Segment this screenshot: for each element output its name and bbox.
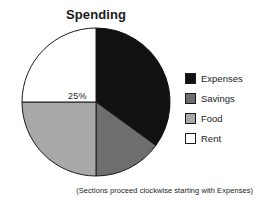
pie-slice-label-rent: 25% (68, 91, 87, 101)
legend-item-expenses: Expenses (185, 68, 259, 88)
legend-label-savings: Savings (201, 93, 235, 104)
legend-swatch-expenses (185, 73, 196, 84)
legend-swatch-savings (185, 93, 196, 104)
legend-swatch-food (185, 113, 196, 124)
legend-label-food: Food (201, 113, 223, 124)
legend-swatch-rent (185, 133, 196, 144)
chart-title: Spending (0, 7, 192, 22)
legend-label-rent: Rent (201, 133, 221, 144)
pie-svg (21, 27, 171, 177)
legend-item-rent: Rent (185, 128, 259, 148)
legend: Expenses Savings Food Rent (185, 68, 259, 148)
pie-chart-graphic: 25% (21, 27, 171, 177)
legend-item-food: Food (185, 108, 259, 128)
legend-item-savings: Savings (185, 88, 259, 108)
pie-slice-food (22, 102, 96, 176)
pie-chart-figure: Spending 25% Expenses Savings Food (0, 0, 259, 201)
chart-caption: (Sections proceed clockwise starting wit… (0, 186, 256, 195)
legend-label-expenses: Expenses (201, 73, 243, 84)
